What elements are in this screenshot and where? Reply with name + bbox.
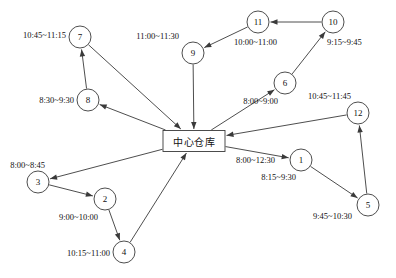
customer-node-5-time-window-label: 9:45~10:30 (313, 212, 352, 221)
edge-arrowhead (350, 192, 357, 198)
customer-node-2-label: 2 (103, 195, 108, 204)
edge-6-to-10 (292, 32, 325, 74)
customer-node-12-time-window-label: 10:45~11:45 (308, 92, 351, 101)
edge-line (359, 125, 366, 193)
edge-arrowhead (180, 153, 186, 160)
customer-node-8-label: 8 (86, 96, 91, 105)
edge-arrowhead (85, 192, 92, 197)
edge-arrowhead (319, 32, 325, 39)
customer-node-3-label: 3 (36, 178, 41, 187)
edge-2-to-4 (109, 210, 120, 240)
customer-node-6-time-window-label: 8:00~9:00 (243, 97, 278, 106)
edge-10-to-11 (271, 19, 322, 24)
edge-3-to-2 (49, 185, 93, 197)
edge-arrowhead (100, 105, 108, 110)
edge-arrowhead (204, 42, 211, 47)
customer-node-6-label: 6 (283, 79, 288, 88)
customer-node-9-time-window-label: 11:00~11:30 (136, 32, 179, 41)
edge-12-to-hub (227, 115, 347, 137)
edge-arrowhead (227, 132, 234, 137)
edge-9-to-hub (191, 64, 196, 129)
customer-node-10-time-window-label: 9:15~9:45 (327, 38, 362, 47)
customer-node-8-time-window-label: 8:30~9:30 (39, 96, 74, 105)
edge-8-to-7 (80, 49, 87, 88)
customer-node-4-label: 4 (122, 248, 127, 257)
hub-node-label: 中心仓库 (173, 134, 215, 149)
edge-4-to-hub (130, 153, 186, 242)
edge-arrowhead (271, 19, 278, 24)
edge-line (50, 149, 162, 179)
customer-node-11-label: 11 (254, 18, 263, 27)
customer-node-5-label: 5 (366, 201, 371, 210)
edge-line (292, 32, 325, 74)
customer-node-1-label: 1 (299, 156, 304, 165)
edge-line (130, 153, 186, 242)
customer-node-4-time-window-label: 10:15~11:00 (67, 249, 110, 258)
edge-line (227, 115, 347, 136)
customer-node-3-time-window-label: 8:00~8:45 (10, 161, 45, 170)
edge-line (88, 45, 180, 129)
edge-arrowhead (115, 233, 120, 241)
edge-1-to-5 (311, 166, 358, 198)
customer-node-1-time-window-label: 8:15~9:30 (261, 173, 296, 182)
edge-arrowhead (80, 49, 85, 56)
route-network-diagram: 中心仓库8:00~12:3018:15~9:3029:00~10:0038:00… (0, 0, 396, 278)
edge-line (100, 105, 166, 130)
customer-node-9-label: 9 (191, 49, 196, 58)
customer-node-7-time-window-label: 10:45~11:15 (23, 31, 66, 40)
edge-arrowhead (357, 125, 362, 132)
edge-arrowhead (281, 154, 288, 159)
hub-time-window-label: 8:00~12:30 (236, 156, 275, 165)
edge-7-to-hub (88, 45, 180, 129)
customer-node-11-time-window-label: 10:00~11:00 (234, 38, 277, 47)
customer-node-2-time-window-label: 9:00~10:00 (59, 213, 98, 222)
customer-node-12-label: 12 (354, 109, 363, 118)
customer-node-10-label: 10 (329, 18, 338, 27)
edge-line (311, 166, 358, 198)
edge-line (193, 64, 194, 129)
edge-5-to-12 (357, 125, 366, 193)
edge-hub-to-3 (50, 149, 162, 179)
customer-node-7-label: 7 (78, 33, 83, 42)
edge-arrowhead (50, 174, 57, 179)
edge-hub-to-8 (100, 105, 166, 130)
edge-arrowhead (191, 122, 196, 129)
